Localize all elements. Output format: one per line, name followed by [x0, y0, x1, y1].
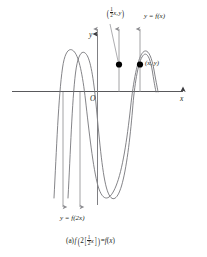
function-transformation-figure: [0, 0, 207, 257]
point-label-half-x-y: (12x, y): [106, 7, 125, 19]
point-x-y: [137, 61, 143, 67]
caption-var-x: x: [91, 237, 94, 244]
paren-close: ): [122, 8, 124, 19]
curve-y-equals-f-of-2x: [68, 52, 156, 198]
caption-f: f: [75, 237, 77, 245]
origin-label: O: [90, 95, 95, 103]
caption-bracket-close: ]: [94, 236, 96, 246]
caption-bracket-open: [: [85, 236, 87, 246]
caption-fx-close: ): [112, 237, 114, 245]
caption-prefix: (a): [66, 237, 74, 245]
figure-caption: (a) f(2[12x])=f(x): [66, 235, 115, 247]
paren-open: (: [107, 8, 109, 19]
curve-label-f-of-2x: y = f(2x): [60, 215, 85, 222]
caption-paren-open: (: [77, 236, 79, 247]
point-half-x-y: [116, 61, 122, 67]
x-axis-label: x: [180, 95, 183, 103]
y-axis-label: y: [89, 31, 92, 39]
point-label-x-y: (x, y): [145, 60, 159, 67]
caption-two: 2: [80, 237, 84, 245]
callout-leader-line: [110, 24, 118, 61]
caption-paren-close: ): [98, 236, 100, 247]
curve-label-f-of-x: y = f(x): [144, 13, 165, 20]
curve-y-equals-f-of-x: [54, 50, 158, 198]
